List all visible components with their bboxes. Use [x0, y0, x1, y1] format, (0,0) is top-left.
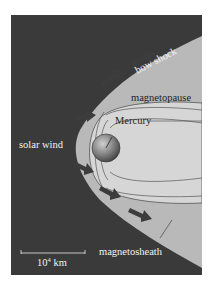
scale-label: 104 km: [37, 256, 67, 268]
magnetosheath-label: magnetosheath: [99, 246, 163, 257]
mercury-label: Mercury: [115, 115, 152, 126]
magnetopause-label: magnetopause: [131, 92, 191, 103]
mercury-magnetosphere-diagram: bow shock magnetopause Mercury solar win…: [0, 0, 213, 285]
solar-wind-label: solar wind: [19, 139, 64, 150]
